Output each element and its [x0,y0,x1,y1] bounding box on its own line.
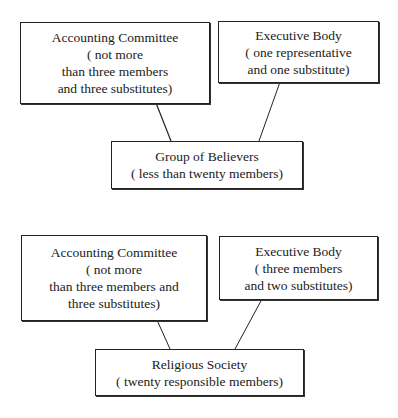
box-text: three substitutes) [68,295,160,312]
box-title: Accounting Committee [52,29,178,46]
accounting-committee-box-1: Accounting Committee ( not more than thr… [20,22,210,104]
box-text: and three substitutes) [58,80,173,97]
religious-society-box: Religious Society ( twenty responsible m… [95,349,304,396]
box-text: ( not more [87,46,143,63]
box-text: than three members and [49,278,178,295]
box-title: Accounting Committee [51,244,177,261]
group-of-believers-box: Group of Believers ( less than twenty me… [111,141,303,189]
box-title: Executive Body [255,27,342,44]
box-text: ( three members [255,260,343,277]
box-text: ( not more [86,261,142,278]
box-text: and one substitute) [248,61,350,78]
executive-body-box-2: Executive Body ( three members and two s… [219,236,378,300]
executive-body-box-1: Executive Body ( one representative and … [218,21,379,83]
accounting-committee-box-2: Accounting Committee ( not more than thr… [21,235,207,321]
box-title: Executive Body [255,243,342,260]
box-title: Group of Believers [155,148,258,165]
box-text: and two substitutes) [245,277,353,294]
box-text: ( one representative [245,44,351,61]
box-title: Religious Society [152,356,248,373]
box-text: ( less than twenty members) [131,165,283,182]
box-text: than three members [62,63,168,80]
box-text: ( twenty responsible members) [116,373,283,390]
